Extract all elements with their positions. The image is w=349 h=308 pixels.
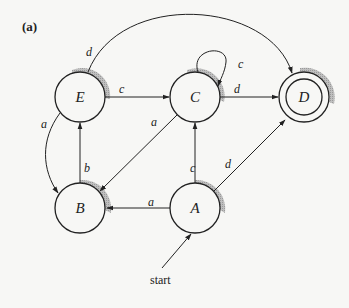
edge-label-c-b: a: [151, 115, 157, 129]
edge-label-c-d: d: [234, 82, 241, 96]
node-label-a: A: [189, 200, 200, 216]
edge-label-e-d: d: [86, 45, 93, 59]
edge-label-a-d: d: [225, 157, 232, 171]
start-arrow: [162, 234, 191, 268]
edge-label-e-b: a: [41, 117, 47, 131]
node-label-c: C: [190, 89, 201, 105]
state-diagram: (a): [0, 0, 349, 308]
edge-a-d: [214, 120, 285, 191]
edge-label-a-b: a: [148, 195, 154, 209]
edge-c-b: [100, 115, 177, 191]
node-label-e: E: [74, 89, 84, 105]
start-label: start: [150, 273, 171, 287]
edge-e-d: [88, 14, 292, 73]
edge-e-b: [46, 113, 61, 193]
node-label-d: D: [298, 89, 310, 105]
edge-label-c-c: c: [238, 57, 244, 71]
edge-label-e-c: c: [119, 82, 125, 96]
edge-label-b-e: b: [84, 161, 90, 175]
figure-label: (a): [22, 19, 37, 34]
edge-label-a-c: c: [190, 161, 196, 175]
node-label-b: B: [75, 200, 84, 216]
